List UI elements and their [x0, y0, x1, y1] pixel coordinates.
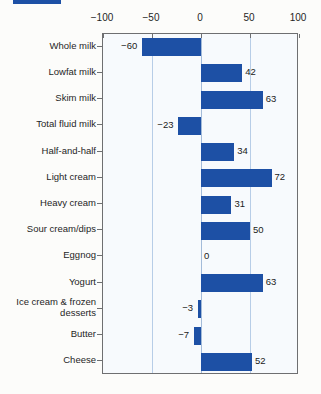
category-tick [97, 72, 102, 73]
x-axis-tick-label--100: −100 [91, 12, 114, 24]
category-label: Whole milk [2, 33, 96, 59]
category-tick [97, 360, 102, 361]
bar [198, 300, 201, 318]
value-label: 0 [204, 250, 209, 262]
bar [201, 222, 250, 240]
value-label: −7 [178, 329, 189, 341]
category-label: Skim milk [2, 85, 96, 111]
category-tick [97, 151, 102, 152]
value-label: 50 [253, 224, 264, 236]
category-tick [97, 308, 102, 309]
bar [201, 274, 263, 292]
category-label: Cheese [2, 348, 96, 374]
gridline--50 [152, 34, 153, 373]
category-label: Half-and-half [2, 138, 96, 164]
value-label: 52 [255, 355, 266, 367]
category-label: Lowfat milk [2, 59, 96, 85]
bar [178, 117, 201, 135]
x-axis-tick-label-0: 0 [197, 12, 203, 24]
value-label: 72 [275, 171, 286, 183]
value-label: 63 [266, 93, 277, 105]
legend-swatch [13, 0, 61, 4]
category-tick [97, 334, 102, 335]
category-label: Butter [2, 322, 96, 348]
category-label: Ice cream & frozen desserts [2, 295, 96, 321]
category-label: Sour cream/dips [2, 217, 96, 243]
plot-area [102, 33, 298, 374]
x-axis-tick-label--50: −50 [143, 12, 160, 24]
category-tick [97, 98, 102, 99]
bar [142, 38, 201, 56]
category-label: Yogurt [2, 269, 96, 295]
bar [201, 91, 263, 109]
x-axis-tick-label-100: 100 [290, 12, 307, 24]
category-tick [97, 124, 102, 125]
bar [201, 169, 272, 187]
value-label: 31 [234, 198, 245, 210]
value-label: 63 [266, 276, 277, 288]
value-label: −3 [182, 302, 193, 314]
category-tick [97, 255, 102, 256]
dairy-products-change-bar-chart: −100−50050100Whole milk−60Lowfat milk42S… [0, 0, 321, 394]
bar [201, 353, 252, 371]
category-label: Total fluid milk [2, 112, 96, 138]
category-tick [97, 177, 102, 178]
gridline-50 [250, 34, 251, 373]
category-tick [97, 282, 102, 283]
value-label: 34 [237, 145, 248, 157]
x-axis-tick-100 [299, 34, 300, 38]
x-axis-tick-label-50: 50 [243, 12, 254, 24]
x-axis-tick-50 [250, 34, 251, 38]
category-label: Light cream [2, 164, 96, 190]
category-tick [97, 229, 102, 230]
value-label: −23 [157, 119, 173, 131]
bar [201, 196, 231, 214]
bar [201, 143, 234, 161]
value-label: 42 [245, 66, 256, 78]
category-tick [97, 46, 102, 47]
category-tick [97, 203, 102, 204]
category-label: Heavy cream [2, 190, 96, 216]
bar [201, 64, 242, 82]
value-label: −60 [121, 40, 137, 52]
x-axis-tick--100 [103, 34, 104, 38]
bar [194, 327, 201, 345]
category-label: Eggnog [2, 243, 96, 269]
